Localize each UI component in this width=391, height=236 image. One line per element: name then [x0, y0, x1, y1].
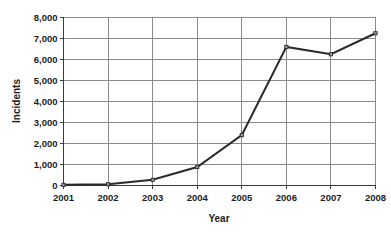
x-tick-label: 2004 — [187, 192, 209, 203]
y-tick-label: 5,000 — [34, 75, 58, 86]
x-tick-label: 2001 — [53, 192, 75, 203]
y-tick-label: 7,000 — [34, 33, 58, 44]
incidents-by-year-line-chart: 01,0002,0003,0004,0005,0006,0007,0008,00… — [0, 0, 391, 236]
chart-canvas: 01,0002,0003,0004,0005,0006,0007,0008,00… — [0, 0, 391, 236]
y-tick-label: 4,000 — [34, 96, 58, 107]
y-tick-label: 0 — [52, 180, 57, 191]
y-axis-tick-labels: 01,0002,0003,0004,0005,0006,0007,0008,00… — [34, 12, 58, 191]
data-point-marker — [151, 178, 154, 181]
x-tick-label: 2003 — [142, 192, 163, 203]
x-tick-label: 2006 — [276, 192, 297, 203]
x-tick-label: 2005 — [231, 192, 253, 203]
data-point-marker — [285, 45, 288, 48]
y-tick-label: 2,000 — [34, 138, 58, 149]
x-tick-label: 2008 — [365, 192, 386, 203]
x-tick-label: 2002 — [98, 192, 119, 203]
data-point-marker — [196, 165, 199, 168]
x-axis-title: Year — [208, 213, 229, 224]
x-tick-label: 2007 — [320, 192, 341, 203]
data-point-marker — [106, 183, 109, 186]
y-tick-label: 8,000 — [34, 12, 58, 23]
y-tick-label: 1,000 — [34, 159, 58, 170]
y-tick-label: 3,000 — [34, 117, 58, 128]
data-point-marker — [329, 53, 332, 56]
y-tick-label: 6,000 — [34, 54, 58, 65]
data-point-marker — [62, 183, 65, 186]
y-axis-title: Incidents — [11, 79, 22, 123]
data-point-marker — [374, 32, 377, 35]
data-point-marker — [240, 134, 243, 137]
